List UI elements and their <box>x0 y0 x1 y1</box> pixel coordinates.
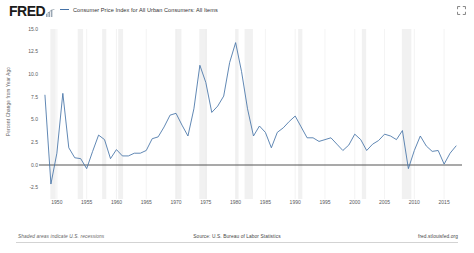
source-note: Source: U.S. Bureau of Labor Statistics <box>0 234 474 239</box>
footer-divider <box>16 242 458 243</box>
recession-band <box>118 29 123 199</box>
fred-url[interactable]: fred.stlouisfed.org <box>418 234 458 239</box>
recession-band <box>298 29 302 199</box>
chart-canvas[interactable] <box>0 21 474 232</box>
recession-band <box>78 29 83 199</box>
chart-plot-area: Percent Change from Year Ago 15.012.510.… <box>0 21 474 232</box>
chart-legend: Consumer Price Index for All Urban Consu… <box>60 7 218 14</box>
recession-band <box>402 29 412 199</box>
recession-band <box>102 29 106 199</box>
fred-bar-mark-icon <box>46 9 55 17</box>
legend-color-swatch <box>60 9 69 10</box>
expand-icon[interactable] <box>457 6 466 15</box>
fred-chart-widget: FRED Consumer Price Index for All Urban … <box>0 0 474 253</box>
chart-footer: Shaded areas indicate U.S. recessions So… <box>0 232 474 253</box>
chart-header: FRED Consumer Price Index for All Urban … <box>0 0 474 21</box>
recession-band <box>362 29 366 199</box>
fred-logo: FRED <box>9 4 45 18</box>
legend-series-label: Consumer Price Index for All Urban Consu… <box>73 7 218 14</box>
